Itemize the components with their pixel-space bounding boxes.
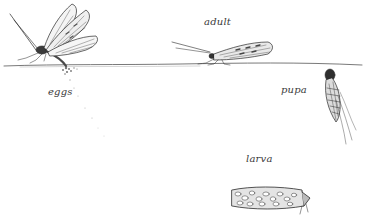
larva-label: larva (246, 153, 273, 164)
eggs-label: eggs (48, 86, 73, 97)
caddisfly-life-cycle-illustration: eggs adult pupa larva (0, 0, 366, 219)
pupa-figure (325, 69, 356, 144)
adult-label: adult (204, 16, 231, 27)
larva-case-figure (232, 187, 310, 214)
egg-laying-adult-figure (10, 4, 104, 136)
water-surface-line (4, 63, 362, 67)
sinking-eggs-trail (69, 79, 104, 136)
illustration-artwork (0, 0, 366, 219)
adult-caddisfly-figure (172, 42, 273, 65)
pupa-label: pupa (281, 84, 307, 95)
egg-mass (62, 67, 78, 75)
